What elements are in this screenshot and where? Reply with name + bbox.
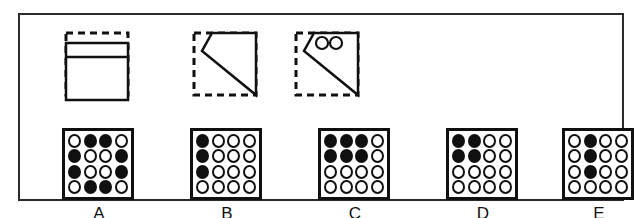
dot-grid-b[interactable] bbox=[190, 128, 262, 200]
dot-cell bbox=[339, 164, 355, 180]
dot-grid-c[interactable] bbox=[318, 128, 390, 200]
dot-cell bbox=[482, 133, 498, 149]
dot-cell bbox=[498, 164, 514, 180]
dot-cell bbox=[370, 180, 386, 196]
dot-cell bbox=[67, 133, 83, 149]
answer-option-c[interactable]: C bbox=[318, 128, 392, 218]
dot-cell bbox=[614, 164, 630, 180]
dot-cell bbox=[354, 180, 370, 196]
empty-dot bbox=[243, 149, 256, 163]
dot-cell bbox=[83, 180, 99, 196]
dot-cell bbox=[583, 164, 599, 180]
empty-dot bbox=[568, 165, 581, 179]
dot-cell bbox=[482, 149, 498, 165]
puzzle-frame: A B C D E bbox=[18, 13, 624, 201]
empty-dot bbox=[599, 165, 612, 179]
answer-option-a[interactable]: A bbox=[62, 128, 136, 218]
dot-cell bbox=[583, 133, 599, 149]
answer-option-d[interactable]: D bbox=[446, 128, 520, 218]
dot-grid-d[interactable] bbox=[446, 128, 518, 200]
empty-dot bbox=[615, 134, 628, 148]
dot-cell bbox=[567, 164, 583, 180]
filled-dot bbox=[84, 180, 97, 194]
dot-cell bbox=[98, 180, 114, 196]
empty-dot bbox=[499, 134, 512, 148]
filled-dot bbox=[115, 165, 128, 179]
empty-dot bbox=[452, 180, 465, 194]
empty-dot bbox=[355, 180, 368, 194]
empty-dot bbox=[212, 149, 225, 163]
empty-dot bbox=[599, 134, 612, 148]
empty-dot bbox=[599, 149, 612, 163]
filled-dot bbox=[355, 134, 368, 148]
filled-dot bbox=[584, 134, 597, 148]
dot-cell bbox=[211, 133, 227, 149]
dot-cell bbox=[226, 164, 242, 180]
empty-dot bbox=[371, 149, 384, 163]
empty-dot bbox=[324, 180, 337, 194]
answer-option-e[interactable]: E bbox=[562, 128, 636, 218]
dot-cell bbox=[467, 133, 483, 149]
empty-dot bbox=[227, 165, 240, 179]
dot-cell bbox=[614, 180, 630, 196]
dot-cell bbox=[211, 164, 227, 180]
filled-dot bbox=[196, 165, 209, 179]
empty-dot bbox=[68, 180, 81, 194]
empty-dot bbox=[499, 180, 512, 194]
empty-dot bbox=[615, 180, 628, 194]
dot-grid-e[interactable] bbox=[562, 128, 634, 200]
dot-cell bbox=[451, 180, 467, 196]
option-label-e: E bbox=[562, 204, 636, 218]
empty-dot bbox=[584, 180, 597, 194]
dot-cell bbox=[114, 180, 130, 196]
empty-dot bbox=[599, 180, 612, 194]
dot-cell bbox=[467, 180, 483, 196]
empty-dot bbox=[84, 149, 97, 163]
filled-dot bbox=[196, 149, 209, 163]
dot-cell bbox=[83, 133, 99, 149]
filled-dot bbox=[324, 149, 337, 163]
filled-dot bbox=[68, 165, 81, 179]
empty-dot bbox=[615, 149, 628, 163]
empty-dot bbox=[115, 134, 128, 148]
dot-cell bbox=[242, 164, 258, 180]
dot-grid-a[interactable] bbox=[62, 128, 134, 200]
filled-dot bbox=[68, 149, 81, 163]
dot-cell bbox=[482, 180, 498, 196]
empty-dot bbox=[227, 134, 240, 148]
dot-cell bbox=[370, 164, 386, 180]
filled-dot bbox=[84, 134, 97, 148]
answer-option-b[interactable]: B bbox=[190, 128, 264, 218]
dot-cell bbox=[242, 180, 258, 196]
empty-dot bbox=[568, 180, 581, 194]
empty-dot bbox=[483, 165, 496, 179]
empty-dot bbox=[340, 165, 353, 179]
empty-dot bbox=[483, 134, 496, 148]
dot-cell bbox=[83, 164, 99, 180]
filled-dot bbox=[468, 134, 481, 148]
dot-cell bbox=[98, 164, 114, 180]
empty-dot bbox=[243, 165, 256, 179]
empty-dot bbox=[324, 165, 337, 179]
option-label-c: C bbox=[318, 204, 392, 218]
filled-dot bbox=[355, 149, 368, 163]
dot-cell bbox=[467, 164, 483, 180]
empty-dot bbox=[371, 180, 384, 194]
dot-cell bbox=[67, 164, 83, 180]
empty-dot bbox=[212, 134, 225, 148]
empty-dot bbox=[243, 180, 256, 194]
dot-cell bbox=[114, 164, 130, 180]
puzzle-root: A B C D E bbox=[0, 0, 644, 218]
dot-cell bbox=[354, 164, 370, 180]
filled-dot bbox=[115, 149, 128, 163]
empty-dot bbox=[340, 180, 353, 194]
empty-dot bbox=[115, 180, 128, 194]
dot-cell bbox=[451, 133, 467, 149]
dot-cell bbox=[83, 149, 99, 165]
dot-cell bbox=[195, 180, 211, 196]
dot-cell bbox=[339, 149, 355, 165]
empty-dot bbox=[243, 134, 256, 148]
dot-cell bbox=[98, 149, 114, 165]
dot-cell bbox=[614, 133, 630, 149]
dot-cell bbox=[195, 133, 211, 149]
